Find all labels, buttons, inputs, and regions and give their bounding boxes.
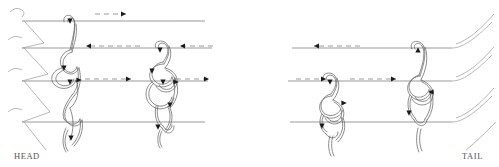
knot-direction-markers-right (319, 47, 433, 129)
knot-weaving-diagram (0, 0, 499, 167)
flow-arrows-left (85, 14, 213, 79)
knot-direction-markers-left (61, 18, 178, 140)
knot-left-outer (52, 15, 83, 152)
label-head: HEAD (14, 151, 40, 161)
warp-row-fade-left (170, 21, 205, 81)
label-tail: TAIL (462, 151, 483, 161)
knot-right-outer (408, 41, 434, 152)
flow-arrows-right (296, 46, 396, 79)
left-panel (8, 8, 213, 152)
warp-rows-left (22, 21, 212, 122)
selvedge-curves-right (452, 14, 496, 150)
right-panel (288, 14, 496, 156)
selvedge-zigzag-left (8, 8, 50, 150)
knot-left-inner (146, 41, 178, 148)
knot-right-inner (320, 73, 345, 156)
diagram-canvas: HEAD TAIL (0, 0, 499, 167)
